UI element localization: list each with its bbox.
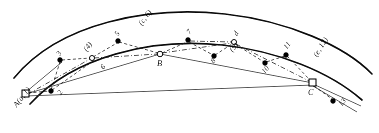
chord-a-to-c-lower — [26, 85, 313, 96]
node-marker-7 — [186, 38, 191, 43]
node-marker-3 — [58, 58, 63, 63]
node-marker-13 — [331, 99, 336, 104]
anchor-marker-a — [22, 90, 29, 97]
node-marker-10 — [263, 61, 268, 66]
segment-2-cross-b — [52, 59, 96, 90]
waypoint-paths-dashdot — [28, 41, 311, 94]
anchor-marker-c — [309, 79, 316, 86]
node-marker-2 — [49, 89, 54, 94]
corridor-outer-edge — [14, 12, 372, 78]
corridor-diagram-svg — [0, 0, 379, 133]
corridor-inner-edge — [30, 44, 362, 104]
tail-a-upper — [26, 62, 62, 92]
node-marker-8 — [212, 54, 217, 59]
segment-3-4 — [62, 58, 90, 60]
tail-c-upper — [313, 84, 361, 106]
node-marker-5 — [116, 39, 121, 44]
node-marker-d — [232, 40, 237, 45]
anchor-marker-b — [157, 51, 163, 57]
segment-7-d-chain — [190, 41, 232, 42]
corridor-band — [14, 12, 372, 104]
chord-b-to-c — [160, 54, 313, 83]
node-marker-4 — [90, 56, 95, 61]
node-marker-11 — [284, 53, 289, 58]
figure-container: A(a, 1) B C 2 3 (4) 5 6 (c, 6) 7 8 (9) d… — [0, 0, 379, 133]
